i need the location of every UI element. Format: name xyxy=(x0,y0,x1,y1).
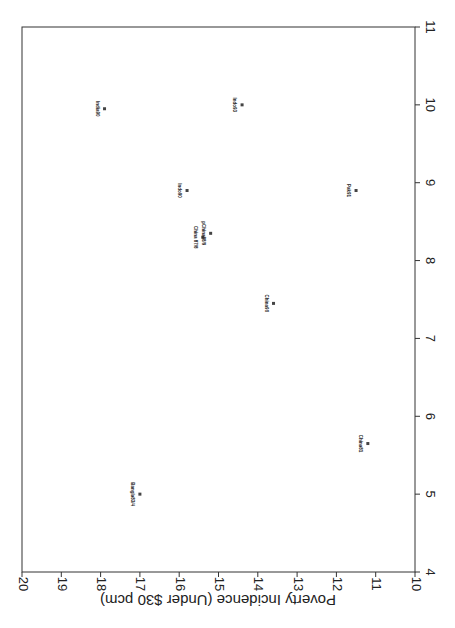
y-axis: 1011121314151617181920 xyxy=(16,572,424,591)
data-point-label: Indo93 xyxy=(232,98,237,113)
scatter-chart: 1011121314151617181920 4567891011 Bangla… xyxy=(0,0,455,628)
x-tick-label: 6 xyxy=(423,413,438,420)
data-point-label: China81 xyxy=(358,435,363,453)
x-tick-label: 5 xyxy=(423,491,438,498)
data-points: Bangla83/4China81China90China 87/8pChina… xyxy=(95,98,370,507)
y-tick-label: 17 xyxy=(133,577,148,591)
y-tick-label: 20 xyxy=(16,577,31,591)
y-tick-label: 13 xyxy=(291,577,306,591)
data-point-marker xyxy=(186,189,189,192)
x-tick-label: 11 xyxy=(423,20,438,34)
x-tick-label: 9 xyxy=(423,179,438,186)
data-point-marker xyxy=(241,103,244,106)
y-tick-label: 14 xyxy=(251,577,266,591)
data-point-label: India90 xyxy=(95,101,100,117)
plot-frame xyxy=(22,27,415,572)
y-tick-label: 12 xyxy=(330,577,345,591)
data-point-marker xyxy=(355,189,358,192)
data-point-label: Pak91 xyxy=(346,184,351,198)
data-point-marker xyxy=(138,493,141,496)
y-tick-label: 16 xyxy=(173,577,188,591)
x-tick-label: 7 xyxy=(423,335,438,342)
data-point-label: Indo90 xyxy=(177,183,182,198)
x-tick-label: 4 xyxy=(423,568,438,575)
y-tick-label: 11 xyxy=(369,577,384,591)
y-tick-label: 18 xyxy=(94,577,109,591)
data-point-label: pChina88/9 xyxy=(201,221,206,246)
x-tick-label: 10 xyxy=(423,98,438,112)
data-point-marker xyxy=(366,442,369,445)
y-tick-label: 10 xyxy=(409,577,424,591)
data-point-label: China90 xyxy=(264,295,269,313)
data-point-marker xyxy=(272,302,275,305)
data-point-label: Bangla83/4 xyxy=(130,482,135,506)
y-tick-label: 15 xyxy=(212,577,227,591)
y-tick-label: 19 xyxy=(55,577,70,591)
data-point-marker xyxy=(103,107,106,110)
data-point-marker xyxy=(209,232,212,235)
x-tick-label: 8 xyxy=(423,257,438,264)
data-point-label: China 87/8 xyxy=(193,226,198,249)
x-axis: 4567891011 xyxy=(415,20,438,575)
y-axis-label: Poverty Incidence (Under $30 pcm) xyxy=(100,592,336,609)
